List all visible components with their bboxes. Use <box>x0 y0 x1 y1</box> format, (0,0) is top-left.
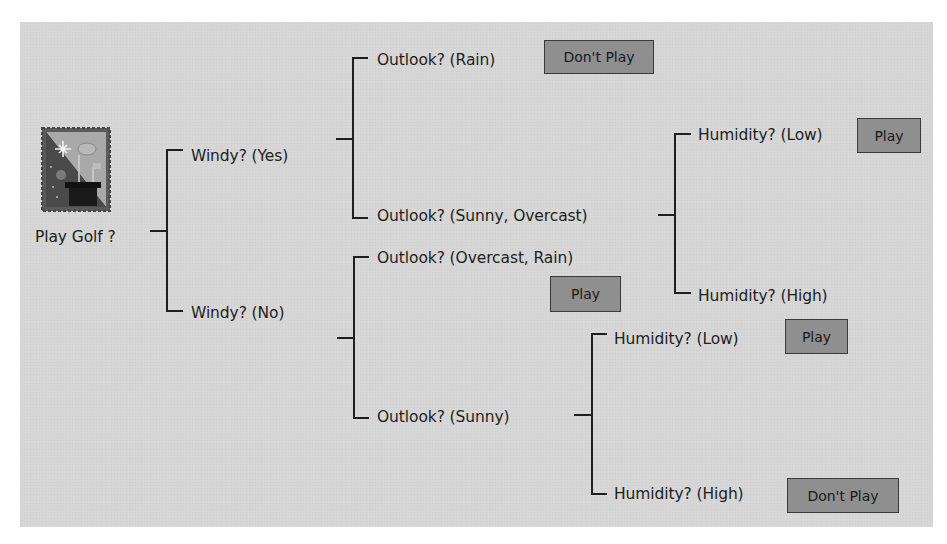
connector-line <box>574 414 591 416</box>
connector-line <box>658 214 674 216</box>
node-outlook-overcast-rain: Outlook? (Overcast, Rain) <box>377 248 573 268</box>
connector-line <box>674 292 691 294</box>
connector-line <box>591 333 607 335</box>
connector-line <box>353 417 369 419</box>
outcome-dont-play: Don't Play <box>787 478 899 513</box>
node-windy-no: Windy? (No) <box>191 303 284 323</box>
outcome-dont-play: Don't Play <box>544 40 654 74</box>
diagram-panel <box>20 22 933 527</box>
connector-line <box>591 493 607 495</box>
connector-line <box>352 217 368 219</box>
connector-line <box>166 149 183 151</box>
node-outlook-sunny: Outlook? (Sunny) <box>377 407 509 427</box>
node-humidity-high: Humidity? (High) <box>698 286 828 306</box>
outcome-play: Play <box>550 276 621 312</box>
connector-line <box>166 310 183 312</box>
node-outlook-rain: Outlook? (Rain) <box>377 50 495 70</box>
golf-bag-icon <box>41 127 111 212</box>
node-outlook-sunny-overcast: Outlook? (Sunny, Overcast) <box>377 206 587 226</box>
node-windy-yes: Windy? (Yes) <box>191 146 288 166</box>
node-humidity-low: Humidity? (Low) <box>614 329 739 349</box>
connector-line <box>150 230 166 232</box>
connector-line <box>591 333 593 494</box>
node-humidity-low: Humidity? (Low) <box>698 125 823 145</box>
connector-line <box>674 133 691 135</box>
connector-line <box>353 256 369 258</box>
connector-line <box>352 57 354 218</box>
connector-line <box>166 149 168 311</box>
outcome-play: Play <box>857 118 921 153</box>
connector-line <box>336 138 352 140</box>
connector-line <box>337 337 353 339</box>
connector-line <box>353 256 355 418</box>
outcome-play: Play <box>785 319 848 354</box>
root-label: Play Golf ? <box>35 227 116 247</box>
connector-line <box>674 133 676 293</box>
node-humidity-high: Humidity? (High) <box>614 484 744 504</box>
connector-line <box>352 57 368 59</box>
